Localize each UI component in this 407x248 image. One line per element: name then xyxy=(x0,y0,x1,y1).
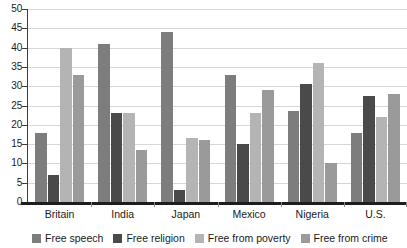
bar xyxy=(376,117,388,202)
legend-swatch-free-from-poverty xyxy=(195,234,204,243)
grouped-bar-chart: 05101520253035404550 BritainIndiaJapanMe… xyxy=(0,0,407,248)
bar xyxy=(325,163,337,202)
category-separator-tick xyxy=(344,202,345,207)
bar xyxy=(237,144,249,202)
y-axis-label: 50 xyxy=(0,4,22,14)
bar-group xyxy=(218,0,281,202)
bar xyxy=(136,150,148,202)
bar xyxy=(313,63,325,202)
y-axis-label: 30 xyxy=(0,81,22,91)
bar xyxy=(73,75,85,202)
y-axis-label: 5 xyxy=(0,178,22,188)
bar-group xyxy=(281,0,344,202)
bar xyxy=(98,44,110,202)
legend-label: Free from crime xyxy=(314,233,388,244)
y-axis-label: 25 xyxy=(0,101,22,111)
legend-item[interactable]: Free from poverty xyxy=(195,233,291,244)
legend-item[interactable]: Free speech xyxy=(32,233,103,244)
category-separator-tick xyxy=(281,202,282,207)
legend-swatch-free-from-crime xyxy=(301,234,310,243)
bar xyxy=(111,113,123,202)
category-label-nigeria: Nigeria xyxy=(281,207,344,221)
legend-swatch-free-speech xyxy=(32,234,41,243)
bar xyxy=(48,175,60,202)
category-label-u-s: U.S. xyxy=(344,207,407,221)
y-axis-tick-labels: 05101520253035404550 xyxy=(0,0,22,206)
bar xyxy=(161,32,173,202)
bar xyxy=(388,94,400,202)
category-separator-tick xyxy=(218,202,219,207)
y-axis-label: 35 xyxy=(0,62,22,72)
category-separator-tick xyxy=(91,202,92,207)
y-axis-label: 0 xyxy=(0,197,22,207)
category-label-india: India xyxy=(91,207,154,221)
y-axis-label: 10 xyxy=(0,158,22,168)
bar xyxy=(225,75,237,202)
legend-label: Free religion xyxy=(126,233,184,244)
bar xyxy=(199,140,211,202)
bar xyxy=(351,133,363,202)
x-axis-category-labels: BritainIndiaJapanMexicoNigeriaU.S. xyxy=(28,207,407,223)
legend-swatch-free-religion xyxy=(113,234,122,243)
category-separator-tick xyxy=(154,202,155,207)
category-label-japan: Japan xyxy=(154,207,217,221)
bar xyxy=(35,133,47,202)
bar xyxy=(60,48,72,202)
bar-group xyxy=(344,0,407,202)
bar xyxy=(288,111,300,202)
bar xyxy=(174,190,186,202)
bar-group xyxy=(154,0,217,202)
chart-legend: Free speechFree religionFree from povert… xyxy=(0,230,407,246)
legend-item[interactable]: Free religion xyxy=(113,233,184,244)
bar xyxy=(262,90,274,202)
bar-group xyxy=(28,0,91,202)
y-axis-label: 45 xyxy=(0,23,22,33)
bar xyxy=(363,96,375,202)
bars-layer xyxy=(28,0,407,202)
legend-item[interactable]: Free from crime xyxy=(301,233,388,244)
category-label-britain: Britain xyxy=(28,207,91,221)
plot-area: 05101520253035404550 BritainIndiaJapanMe… xyxy=(0,0,407,206)
bar xyxy=(186,138,198,202)
bar xyxy=(250,113,262,202)
bar xyxy=(123,113,135,202)
y-axis-label: 40 xyxy=(0,43,22,53)
x-axis-baseline xyxy=(21,202,407,205)
y-axis-label: 20 xyxy=(0,120,22,130)
category-label-mexico: Mexico xyxy=(218,207,281,221)
y-axis-label: 15 xyxy=(0,139,22,149)
legend-label: Free speech xyxy=(45,233,103,244)
bar-group xyxy=(91,0,154,202)
legend-label: Free from poverty xyxy=(208,233,291,244)
bar xyxy=(300,84,312,202)
